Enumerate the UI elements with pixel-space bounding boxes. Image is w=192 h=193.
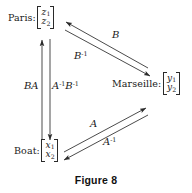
- arrow-layer: [0, 0, 192, 193]
- node-boat: Boat: x1 x2: [14, 139, 58, 162]
- vector-entry-bottom: z2: [41, 17, 50, 27]
- figure-caption: Figure 8: [0, 174, 192, 186]
- node-boat-label: Boat:: [14, 145, 41, 156]
- edge-label-b-inverse: B-1: [74, 51, 87, 61]
- figure-8-diagram: Paris: z1 z2 Marseille: y1 y2 Boat: x1 x…: [0, 0, 192, 193]
- node-marseille: Marseille: y1 y2: [112, 72, 180, 95]
- edge-label-a-inverse: A-1: [103, 137, 116, 147]
- edge-label-ba: BA: [24, 81, 39, 91]
- edge-label-a: A: [90, 119, 97, 129]
- node-marseille-vector: y1 y2: [163, 72, 180, 95]
- node-paris: Paris: z1 z2: [8, 6, 54, 29]
- vector-entry-bottom: y2: [167, 83, 176, 93]
- node-paris-label: Paris:: [8, 12, 37, 23]
- vector-entry-bottom: x2: [45, 150, 54, 160]
- node-marseille-label: Marseille:: [112, 78, 163, 89]
- node-paris-vector: z1 z2: [37, 6, 53, 29]
- node-boat-vector: x1 x2: [41, 139, 58, 162]
- edge-label-a-inverse-b-inverse: A-1B-1: [52, 81, 79, 91]
- edge-label-b: B: [112, 30, 119, 40]
